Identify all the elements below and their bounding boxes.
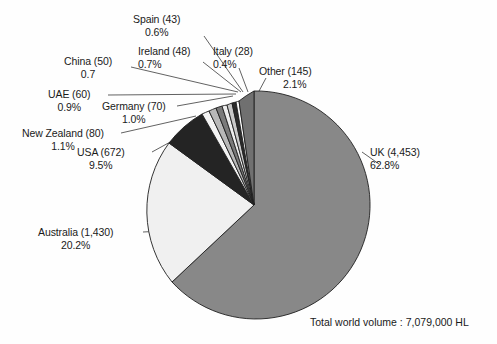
- leader-line-uae: [108, 94, 236, 95]
- pie-label-ireland: Ireland (48) 0.7%: [138, 45, 191, 71]
- pie-label-other-percent: 2.1%: [259, 78, 312, 91]
- pie-label-uae-percent: 0.9%: [48, 101, 90, 114]
- pie-label-china: China (50) 0.7: [64, 55, 112, 81]
- pie-label-usa-name: USA (672): [77, 146, 125, 159]
- pie-label-spain-percent: 0.6%: [133, 26, 180, 39]
- pie-label-other: Other (145) 2.1%: [259, 65, 312, 91]
- pie-label-usa: USA (672) 9.5%: [77, 146, 125, 172]
- pie-label-germany-percent: 1.0%: [102, 113, 166, 126]
- leader-line-germany: [177, 96, 233, 106]
- pie-label-china-percent: 0.7: [64, 68, 112, 81]
- pie-label-usa-percent: 9.5%: [77, 159, 125, 172]
- pie-label-uk-percent: 62.8%: [370, 159, 420, 172]
- pie-label-ireland-percent: 0.7%: [138, 58, 191, 71]
- pie-label-germany: Germany (70) 1.0%: [102, 100, 166, 126]
- pie-label-uae-name: UAE (60): [48, 88, 90, 101]
- pie-slices: [147, 91, 370, 319]
- pie-label-australia: Australia (1,430) 20.2%: [38, 226, 113, 252]
- pie-chart-figure: Spain (43) 0.6% Italy (28) 0.4% Other (1…: [0, 0, 497, 344]
- pie-label-australia-name: Australia (1,430): [38, 226, 113, 239]
- pie-label-ireland-name: Ireland (48): [138, 45, 191, 58]
- pie-label-new-zealand-name: New Zealand (80): [22, 127, 104, 140]
- pie-label-spain-name: Spain (43): [133, 13, 180, 26]
- pie-label-italy: Italy (28) 0.4%: [213, 45, 253, 71]
- pie-label-italy-name: Italy (28): [213, 45, 253, 58]
- pie-label-italy-percent: 0.4%: [213, 58, 253, 71]
- pie-label-australia-percent: 20.2%: [38, 239, 113, 252]
- pie-label-china-name: China (50): [64, 55, 112, 68]
- pie-label-spain: Spain (43) 0.6%: [133, 13, 180, 39]
- pie-label-other-name: Other (145): [259, 65, 312, 78]
- pie-label-uk-name: UK (4,453): [370, 146, 420, 159]
- pie-label-uk: UK (4,453) 62.8%: [370, 146, 420, 172]
- pie-label-uae: UAE (60) 0.9%: [48, 88, 90, 114]
- pie-label-germany-name: Germany (70): [102, 100, 166, 113]
- total-volume-annotation: Total world volume : 7,079,000 HL: [310, 316, 469, 328]
